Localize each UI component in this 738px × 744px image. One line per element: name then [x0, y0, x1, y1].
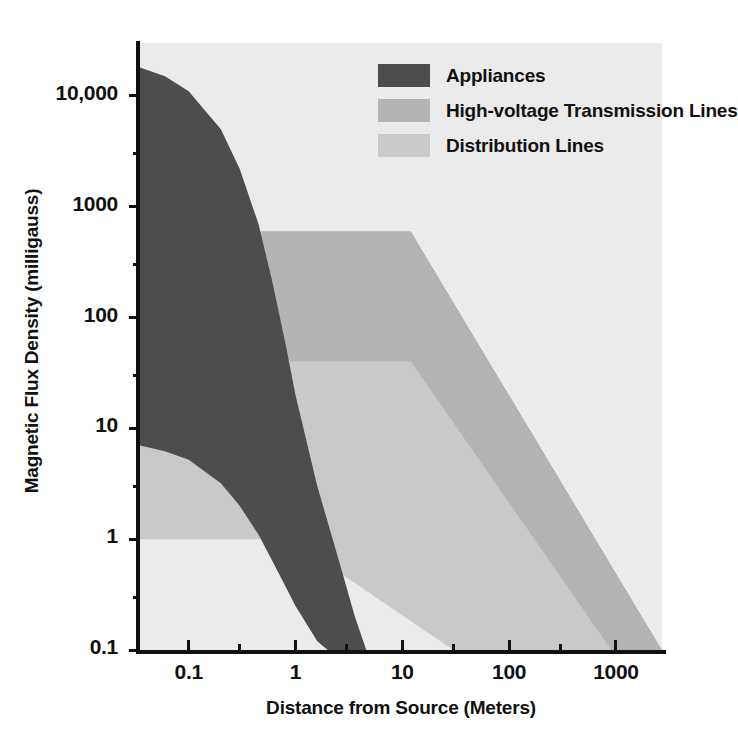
- x-minor-tick: [559, 644, 562, 651]
- legend-label-high-voltage-transmission-lines: High-voltage Transmission Lines: [446, 100, 738, 122]
- y-tick-label-1000: 1000: [0, 192, 118, 216]
- x-tick-label-100: 100: [449, 660, 569, 684]
- legend-swatch-appliances: [378, 64, 430, 87]
- y-minor-tick: [133, 374, 140, 377]
- y-minor-tick: [133, 263, 140, 266]
- y-tick-label-01: 0.1: [0, 635, 118, 659]
- x-minor-tick: [345, 644, 348, 651]
- y-tick-10000: [129, 94, 140, 97]
- x-tick-label-01: 0.1: [129, 660, 249, 684]
- legend-item-distribution-lines: Distribution Lines: [378, 130, 738, 161]
- x-tick-1000: [614, 640, 617, 651]
- y-minor-tick: [133, 485, 140, 488]
- x-tick-01: [187, 640, 190, 651]
- y-minor-tick: [133, 596, 140, 599]
- legend-swatch-high-voltage-transmission-lines: [378, 99, 430, 122]
- legend-item-high-voltage-transmission-lines: High-voltage Transmission Lines: [378, 95, 738, 126]
- y-tick-label-10: 10: [0, 413, 118, 437]
- x-tick-1: [294, 640, 297, 651]
- x-tick-100: [508, 640, 511, 651]
- x-minor-tick: [238, 644, 241, 651]
- legend-label-appliances: Appliances: [446, 65, 545, 87]
- legend-item-appliances: Appliances: [378, 60, 738, 91]
- y-minor-tick: [133, 152, 140, 155]
- legend-label-distribution-lines: Distribution Lines: [446, 135, 604, 157]
- legend-swatch-distribution-lines: [378, 134, 430, 157]
- y-tick-1: [129, 538, 140, 541]
- y-tick-100: [129, 316, 140, 319]
- y-tick-label-100: 100: [0, 303, 118, 327]
- y-axis-line: [136, 41, 140, 654]
- y-tick-label-1: 1: [0, 524, 118, 548]
- x-minor-tick: [452, 644, 455, 651]
- x-tick-label-1000: 1000: [556, 660, 676, 684]
- x-axis-title: Distance from Source (Meters): [140, 697, 662, 719]
- y-tick-10: [129, 427, 140, 430]
- y-tick-1000: [129, 205, 140, 208]
- x-tick-label-10: 10: [342, 660, 462, 684]
- x-tick-label-1: 1: [236, 660, 356, 684]
- x-tick-10: [401, 640, 404, 651]
- y-axis-title: Magnetic Flux Density (milligauss): [21, 61, 43, 621]
- y-tick-label-10000: 10,000: [0, 81, 118, 105]
- y-tick-01: [129, 649, 140, 652]
- chart-legend: Appliances High-voltage Transmission Lin…: [378, 60, 738, 165]
